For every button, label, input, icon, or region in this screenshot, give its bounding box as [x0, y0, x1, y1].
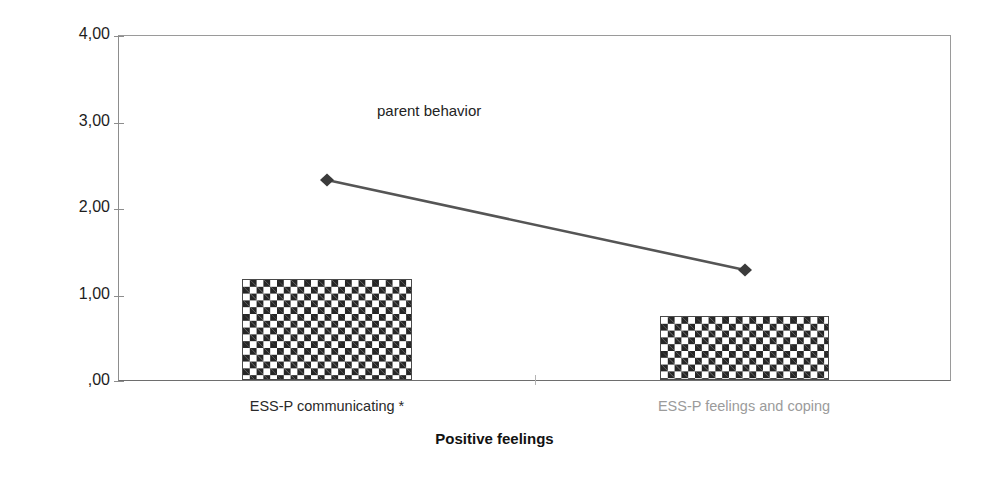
y-tick-mark-4: [114, 36, 124, 37]
parent-behavior-line-segment: [327, 180, 745, 270]
y-tick-mark-1: [114, 296, 124, 297]
y-tick-label-2: 2,00: [56, 198, 110, 216]
y-tick-mark-2: [114, 209, 124, 210]
y-tick-label-3: 3,00: [56, 112, 110, 130]
y-tick-label-1: 1,00: [56, 285, 110, 303]
x-tick-label-ess-p-communicating: ESS-P communicating *: [250, 398, 404, 414]
y-tick-mark-0: [114, 381, 124, 382]
bar-ess-p-communicating: [242, 279, 412, 380]
x-axis-title: Positive feelings: [0, 430, 989, 447]
bar-ess-p-feelings-and-coping: [660, 316, 829, 380]
y-tick-mark-3: [114, 123, 124, 124]
y-axis-tick-labels: 4,00 3,00 2,00 1,00 ,00: [52, 0, 110, 478]
parent-behavior-marker-point-2: [738, 264, 752, 277]
y-tick-label-4: 4,00: [56, 25, 110, 43]
x-tick-mark-center: [535, 375, 536, 385]
y-tick-label-0: ,00: [56, 371, 110, 389]
chart-figure: average frequency 4,00 3,00 2,00 1,00 ,0…: [0, 0, 989, 478]
x-tick-label-ess-p-feelings-and-coping: ESS-P feelings and coping: [658, 398, 830, 414]
parent-behavior-annotation: parent behavior: [377, 102, 481, 119]
plot-area: parent behavior: [118, 35, 951, 381]
parent-behavior-marker-point-1: [320, 174, 334, 187]
